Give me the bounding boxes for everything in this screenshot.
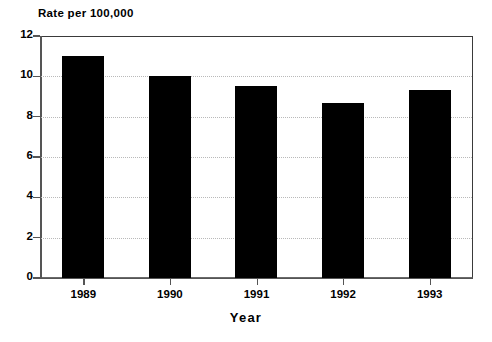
y-axis-label: 0 <box>27 270 33 282</box>
bar-chart: Rate per 100,000 024681012 1989199019911… <box>0 0 492 342</box>
x-axis-tick <box>430 279 431 285</box>
y-axis-label: 4 <box>27 189 33 201</box>
y-axis-label: 10 <box>20 68 33 80</box>
y-axis-tick <box>33 116 40 117</box>
bar <box>62 56 104 278</box>
x-axis-label: 1989 <box>53 288 113 300</box>
y-axis-tick <box>33 35 40 36</box>
y-axis-tick <box>33 277 40 278</box>
x-axis-tick <box>343 279 344 285</box>
x-axis-tick <box>257 279 258 285</box>
y-axis-caption: Rate per 100,000 <box>38 7 134 19</box>
y-axis-tick <box>33 76 40 77</box>
x-axis-tick <box>170 279 171 285</box>
x-axis-title: Year <box>0 310 492 325</box>
bar <box>409 90 451 278</box>
x-axis-label: 1990 <box>140 288 200 300</box>
bar-series <box>40 36 473 278</box>
bar <box>149 76 191 278</box>
x-axis-label: 1992 <box>313 288 373 300</box>
x-axis-tick <box>83 279 84 285</box>
y-axis-label: 2 <box>27 230 33 242</box>
bar <box>322 103 364 278</box>
y-axis-tick <box>33 237 40 238</box>
y-axis-label: 12 <box>20 28 33 40</box>
x-axis-label: 1991 <box>227 288 287 300</box>
y-axis-tick <box>33 197 40 198</box>
y-axis-tick <box>33 156 40 157</box>
y-axis-label: 8 <box>27 109 33 121</box>
y-axis-label: 6 <box>27 149 33 161</box>
bar <box>235 86 277 278</box>
x-axis-label: 1993 <box>400 288 460 300</box>
